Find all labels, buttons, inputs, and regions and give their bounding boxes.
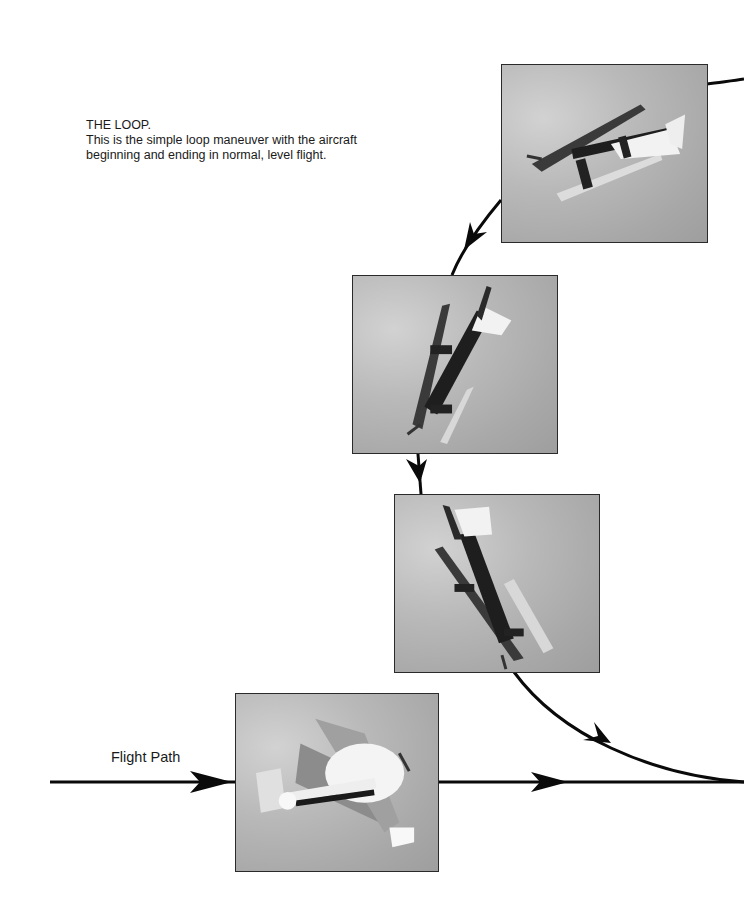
arrow-down-left-icon xyxy=(464,222,487,250)
arrow-down-icon xyxy=(406,459,427,483)
caption-line-1: This is the simple loop maneuver with th… xyxy=(86,133,357,148)
photo-level-flight xyxy=(235,693,439,872)
biplane-icon xyxy=(502,65,707,242)
caption-title: THE LOOP. xyxy=(86,118,357,133)
photo-diving xyxy=(352,275,558,454)
biplane-icon xyxy=(395,495,599,672)
loop-curve-bottom xyxy=(514,672,744,782)
caption: THE LOOP. This is the simple loop maneuv… xyxy=(86,118,357,163)
biplane-icon xyxy=(353,276,557,453)
flight-path-label: Flight Path xyxy=(111,749,180,765)
caption-line-2: beginning and ending in normal, level fl… xyxy=(86,148,357,163)
photo-inverted-top xyxy=(501,64,708,243)
loop-segment-top xyxy=(707,79,744,84)
photo-pull-out xyxy=(394,494,600,673)
biplane-icon xyxy=(236,694,438,871)
arrow-down-right-icon xyxy=(583,722,611,743)
